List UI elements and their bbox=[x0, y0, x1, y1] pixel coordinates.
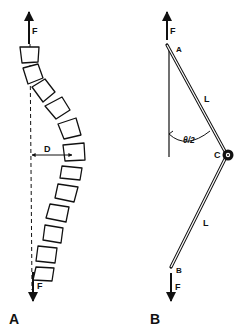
vertebra-1 bbox=[20, 47, 39, 63]
angle-label: θ/2 bbox=[183, 135, 195, 145]
vertebra-2 bbox=[23, 64, 43, 84]
length-label-upper: L bbox=[204, 94, 210, 104]
vertebra-6 bbox=[63, 143, 85, 161]
angle-arc-tick-left bbox=[169, 131, 173, 134]
vertebra-4 bbox=[45, 97, 70, 119]
point-label-b: B bbox=[176, 266, 182, 275]
vertebra-3 bbox=[32, 79, 55, 102]
vertebrae bbox=[20, 47, 85, 296]
hinge-dot bbox=[227, 154, 229, 156]
force-label-bottom-a: F bbox=[37, 281, 43, 291]
vertebra-11 bbox=[36, 246, 57, 263]
length-label-lower: L bbox=[203, 218, 209, 228]
point-label-c: C bbox=[214, 150, 221, 160]
vertebra-5 bbox=[58, 118, 81, 139]
force-label-top-a: F bbox=[32, 26, 38, 36]
diagram-canvas: F D F A F bbox=[0, 0, 247, 334]
vertebra-9 bbox=[46, 204, 69, 222]
vertebra-8 bbox=[55, 184, 78, 202]
vertebra-12 bbox=[33, 267, 54, 281]
panel-label-b: B bbox=[150, 311, 160, 327]
force-label-top-b: F bbox=[170, 26, 176, 36]
point-label-a: A bbox=[176, 45, 182, 54]
vertebra-10 bbox=[43, 225, 63, 243]
panel-b-model: F θ/2 A C B L L F B bbox=[150, 12, 234, 327]
vertebra-7 bbox=[60, 166, 82, 180]
deflection-label: D bbox=[44, 144, 51, 154]
panel-label-a: A bbox=[9, 311, 19, 327]
rod-lower-inner bbox=[171, 155, 227, 267]
panel-a-spine: F D F A bbox=[9, 12, 85, 327]
force-label-bottom-b: F bbox=[175, 282, 181, 292]
